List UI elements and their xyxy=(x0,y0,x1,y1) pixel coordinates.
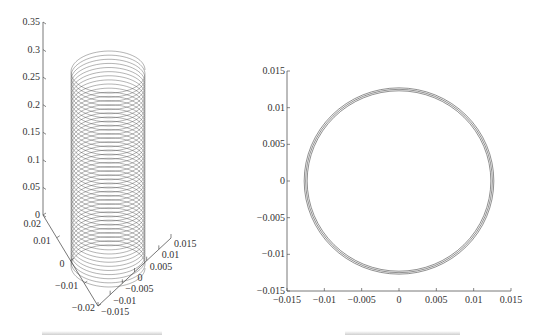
figure-canvas: 00.050.10.150.20.250.30.35−0.02−0.0100.0… xyxy=(0,0,543,335)
z-tick-label: 0.05 xyxy=(23,181,41,192)
x-tick-label: −0.02 xyxy=(72,302,95,313)
z-tick-label: 0.3 xyxy=(28,44,41,55)
z-tick xyxy=(43,22,46,24)
y-tick-label: 0 xyxy=(280,175,285,186)
z-tick-label: 0.1 xyxy=(28,154,41,165)
y-tick-label: 0.015 xyxy=(263,65,286,76)
y-tick-label: −0.015 xyxy=(101,306,129,317)
caption-left-truncated xyxy=(42,331,162,335)
x-tick xyxy=(43,213,46,215)
y-tick-label: 0.01 xyxy=(162,249,180,260)
plot-3d-helix: 00.050.10.150.20.250.30.35−0.02−0.0100.0… xyxy=(23,16,197,317)
y-tick-label: −0.005 xyxy=(257,212,285,223)
z-tick-label: 0.25 xyxy=(23,71,41,82)
z-tick xyxy=(43,50,46,52)
y-tick-label: −0.01 xyxy=(113,295,136,306)
y-tick-label: 0.01 xyxy=(268,102,286,113)
x-tick-label: 0.01 xyxy=(465,294,483,305)
z-tick xyxy=(43,160,46,162)
loop-inner-loop xyxy=(307,91,491,271)
x-tick-label: 0 xyxy=(60,258,65,269)
x-tick xyxy=(57,236,60,238)
x-tick-label: 0.005 xyxy=(425,294,448,305)
z-tick-label: 0.15 xyxy=(23,126,41,137)
z-tick xyxy=(43,105,46,107)
plot-2d-projection: −0.015−0.01−0.00500.0050.010.015−0.015−0… xyxy=(257,65,522,305)
x-tick-label: −0.005 xyxy=(348,294,376,305)
y-tick-label: −0.01 xyxy=(262,248,285,259)
figure: 00.050.10.150.20.250.30.35−0.02−0.0100.0… xyxy=(0,0,543,335)
caption-right-truncated xyxy=(345,331,460,335)
x-tick-label: −0.01 xyxy=(55,280,78,291)
y-tick-label: −0.005 xyxy=(125,283,153,294)
x-tick-label: 0.02 xyxy=(24,218,42,229)
z-tick xyxy=(43,187,46,189)
x-tick-label: −0.015 xyxy=(273,294,301,305)
x-tick-label: −0.01 xyxy=(313,294,336,305)
loop-middle-loop xyxy=(306,89,493,272)
loop-outer-loop xyxy=(304,88,494,274)
y-tick-label: 0.015 xyxy=(174,238,197,249)
x-tick-label: 0 xyxy=(397,294,402,305)
y-tick-label: 0.005 xyxy=(263,138,286,149)
z-tick-label: 0.35 xyxy=(23,16,41,27)
x-tick-label: 0.01 xyxy=(33,235,51,246)
x-tick-label: 0.015 xyxy=(500,294,523,305)
z-tick xyxy=(43,77,46,79)
helix-curve xyxy=(71,51,145,287)
z-tick xyxy=(43,132,46,134)
z-tick-label: 0.2 xyxy=(28,99,41,110)
y-tick-label: 0.005 xyxy=(150,261,173,272)
